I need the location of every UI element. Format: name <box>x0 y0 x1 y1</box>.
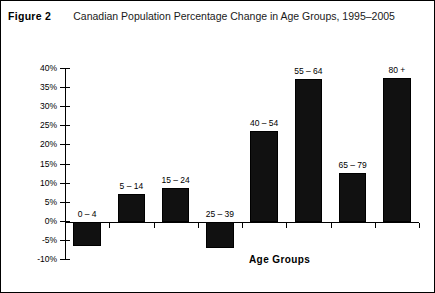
x-axis-tick <box>242 223 243 228</box>
chart-plot-area: 40%35%30%25%20%15%10%5%0%-5%-10% 0 – 45 … <box>1 30 435 293</box>
figure-title: Canadian Population Percentage Change in… <box>73 10 395 22</box>
bar <box>206 222 233 248</box>
x-axis-tick <box>198 223 199 228</box>
bar <box>73 222 100 246</box>
bar <box>383 78 410 222</box>
bar-category-label: 80 + <box>369 65 425 75</box>
x-axis-tick <box>375 223 376 228</box>
bar <box>339 173 366 222</box>
x-axis-tick <box>331 223 332 228</box>
bar-category-label: 0 – 4 <box>59 209 115 219</box>
figure-header: Figure 2 Canadian Population Percentage … <box>1 1 435 30</box>
x-axis-tick <box>154 223 155 228</box>
bar <box>162 188 189 222</box>
x-axis-tick <box>109 223 110 228</box>
bar-category-label: 55 – 64 <box>280 66 336 76</box>
figure-container: Figure 2 Canadian Population Percentage … <box>0 0 435 293</box>
bar-category-label: 40 – 54 <box>236 118 292 128</box>
bar-category-label: 25 – 39 <box>192 209 248 219</box>
bar <box>295 79 322 222</box>
bars-layer: 0 – 45 – 1415 – 2425 – 3940 – 5455 – 646… <box>1 30 435 293</box>
bar <box>118 194 145 222</box>
x-axis-tick <box>419 223 420 228</box>
x-axis-title: Age Groups <box>249 254 310 265</box>
x-axis-tick <box>286 223 287 228</box>
bar <box>250 131 277 222</box>
figure-number-label: Figure 2 <box>8 10 51 22</box>
x-axis-tick <box>65 223 66 228</box>
bar-category-label: 15 – 24 <box>148 175 204 185</box>
bar-category-label: 65 – 79 <box>325 160 381 170</box>
